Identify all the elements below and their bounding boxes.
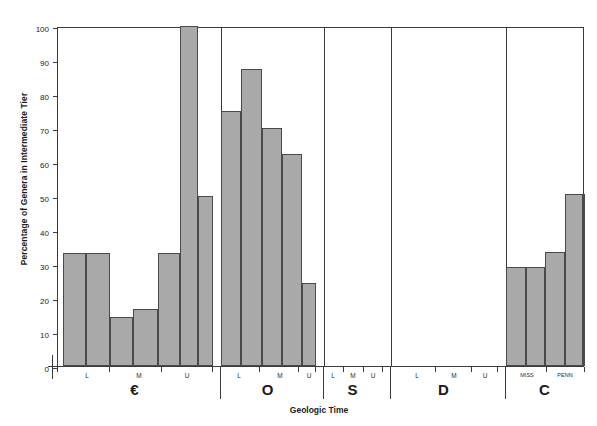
y-axis-title: Percentage of Genera in Intermediate Tie… (19, 54, 33, 304)
x-tick (57, 367, 58, 372)
x-subdivision-label: L (415, 372, 419, 379)
y-tick: 90 (53, 62, 58, 63)
y-tick-label: 80 (40, 93, 49, 102)
x-tick (259, 367, 260, 372)
y-tick: 60 (53, 164, 58, 165)
x-tick (471, 367, 472, 372)
period-divider-devonian (391, 28, 392, 366)
axis-stub-vertical (52, 355, 53, 379)
y-tick: 10 (53, 334, 58, 335)
x-subdivision-label: M (277, 372, 282, 379)
bar (302, 283, 316, 366)
period-label-ordovician: O (262, 381, 274, 398)
x-subdivision-label: MISS (520, 372, 533, 378)
x-subdivision-label: U (483, 372, 488, 379)
x-tick (298, 367, 299, 372)
period-label-devonian: D (438, 381, 449, 398)
bar (110, 317, 133, 366)
bar (565, 194, 583, 366)
y-tick-label: 60 (40, 161, 49, 170)
y-tick-label: 10 (40, 331, 49, 340)
x-subdivision-label: L (237, 372, 241, 379)
period-label-cambrian: € (130, 381, 138, 398)
x-tick (161, 367, 162, 372)
bar (158, 253, 180, 366)
x-subdivision-label: U (371, 372, 376, 379)
period-divider-lower-carboniferous (505, 367, 506, 399)
x-tick (497, 367, 498, 372)
x-tick (315, 367, 316, 372)
y-tick-label: 70 (40, 127, 49, 136)
bar (241, 69, 262, 367)
period-divider-lower-silurian (323, 367, 324, 399)
y-tick-label: 100 (36, 25, 49, 34)
y-tick: 100 (53, 28, 58, 29)
bar (506, 267, 526, 366)
x-subdivision-label: L (85, 372, 89, 379)
y-tick-label: 20 (40, 297, 49, 306)
x-tick (212, 367, 213, 372)
x-subdivision-label: U (307, 372, 312, 379)
bar (198, 196, 213, 366)
x-subdivision-label: L (331, 372, 335, 379)
y-tick: 70 (53, 130, 58, 131)
bar (262, 128, 282, 366)
x-subdivision-label: M (350, 372, 355, 379)
x-subdivision-label: M (451, 372, 456, 379)
x-tick (382, 367, 383, 372)
x-axis-title: Geologic Time (290, 405, 348, 415)
bar (282, 154, 302, 367)
bar (583, 194, 585, 366)
chart-root: Percentage of Genera in Intermediate Tie… (0, 0, 597, 426)
x-tick (343, 367, 344, 372)
x-tick (363, 367, 364, 372)
period-label-silurian: S (347, 381, 357, 398)
period-divider-lower-devonian (390, 367, 391, 399)
x-tick (546, 367, 547, 372)
x-subdivision-label: PENN (557, 372, 572, 378)
bar (526, 267, 545, 366)
bar (86, 253, 110, 366)
y-tick: 30 (53, 266, 58, 267)
bar (545, 252, 565, 366)
period-divider-silurian (324, 28, 325, 366)
y-tick: 20 (53, 300, 58, 301)
y-tick-label: 30 (40, 263, 49, 272)
x-axis-band: LMU€LMUOLMUSLMUDMISSPENNC Geologic Time (57, 367, 584, 426)
bar (180, 26, 198, 366)
x-tick (435, 367, 436, 372)
x-subdivision-label: M (136, 372, 141, 379)
y-tick-label: 50 (40, 195, 49, 204)
x-tick (584, 367, 585, 372)
y-tick: 40 (53, 232, 58, 233)
y-tick: 50 (53, 198, 58, 199)
y-tick-label: 90 (40, 59, 49, 68)
period-label-carboniferous: C (539, 381, 550, 398)
plot-area: 0102030405060708090100 (57, 27, 584, 367)
period-divider-lower-ordovician (220, 367, 221, 399)
y-tick-label: 40 (40, 229, 49, 238)
bar (63, 253, 86, 366)
x-subdivision-label: U (185, 372, 190, 379)
bar (133, 309, 158, 366)
x-tick (109, 367, 110, 372)
bar (221, 111, 241, 366)
y-tick: 80 (53, 96, 58, 97)
